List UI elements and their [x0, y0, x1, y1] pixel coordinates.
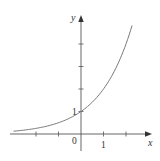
y-axis-label: y [70, 12, 76, 23]
x-axis-label: x [147, 137, 153, 148]
y-tick-label-1: 1 [72, 107, 77, 117]
origin-label: 0 [72, 136, 77, 146]
x-axis-arrow-icon [145, 131, 152, 136]
exponential-graph: y x 0 1 1 [0, 0, 160, 161]
x-tick-label-1: 1 [101, 140, 106, 150]
y-axis-arrow-icon [78, 15, 83, 22]
